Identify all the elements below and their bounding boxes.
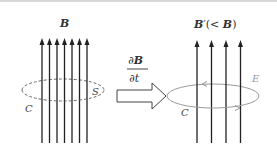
electric-field-label: E [251, 73, 260, 84]
left-field-label: B [59, 17, 69, 30]
left-curve-label: C [25, 103, 33, 114]
surface-label: S [92, 86, 99, 97]
derivative-numerator: ∂B [128, 54, 143, 67]
faraday-diagram: B S C ∂B ∂t B′(< B) E C [0, 0, 277, 156]
right-curve-label: C [181, 107, 189, 118]
right-field-label: B′(< B) [193, 18, 236, 31]
transition-arrow-icon [117, 83, 166, 109]
derivative-denominator: ∂t [129, 72, 140, 85]
right-field-lines [167, 40, 259, 143]
